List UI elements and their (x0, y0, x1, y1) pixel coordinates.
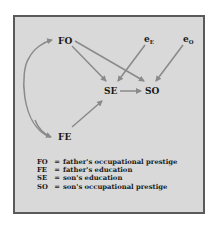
edge-eo-so (156, 45, 183, 81)
node-fe: FE (58, 132, 71, 142)
legend-equals: = (51, 183, 63, 191)
legend-equals: = (51, 166, 63, 174)
legend-equals: = (51, 158, 63, 166)
node-fo: FO (58, 36, 72, 46)
edge-fo-se (72, 46, 106, 81)
node-so: SO (145, 86, 159, 96)
legend-meaning: father's education (63, 166, 132, 174)
legend-meaning: son's education (63, 174, 122, 182)
legend: FO = father's occupational prestige FE =… (37, 158, 177, 191)
legend-abbr: SE (37, 174, 51, 182)
node-e-e: eE (144, 34, 154, 45)
node-e-o: eO (183, 34, 194, 45)
legend-meaning: son's occupational prestige (63, 183, 167, 191)
legend-meaning: father's occupational prestige (63, 158, 177, 166)
legend-abbr: FE (37, 166, 51, 174)
legend-abbr: FO (37, 158, 51, 166)
edge-fe-se (72, 101, 102, 127)
legend-row: FE = father's education (37, 166, 177, 174)
node-se: SE (104, 86, 117, 96)
legend-row: SO = son's occupational prestige (37, 183, 177, 191)
edge-fe-fo-curve (24, 40, 52, 137)
edge-ee-se (118, 45, 145, 81)
legend-abbr: SO (37, 183, 51, 191)
legend-equals: = (51, 174, 63, 182)
path-diagram: FO FE SE SO eE eO (0, 0, 219, 228)
legend-row: SE = son's education (37, 174, 177, 182)
legend-row: FO = father's occupational prestige (37, 158, 177, 166)
